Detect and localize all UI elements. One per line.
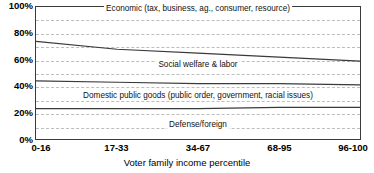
y-axis-tick-label: 20%: [1, 108, 33, 118]
boundary-line: [36, 41, 360, 61]
x-axis-tick-label: 17-33: [104, 142, 128, 154]
x-axis-tick-label: 96-100: [338, 142, 368, 154]
y-axis-tick-label: 40%: [1, 81, 33, 91]
series-lines: [36, 7, 360, 139]
x-axis: 0-1617-3334-6768-9596-100: [0, 142, 374, 156]
x-axis-title: Voter family income percentile: [0, 157, 374, 169]
stacked-area-chart: 100%80%60%40%20%0% 0-1617-3334-6768-9596…: [0, 0, 374, 173]
y-axis-tick-label: 60%: [1, 55, 33, 65]
y-axis-tick-label: 80%: [1, 28, 33, 38]
boundary-line: [36, 81, 360, 85]
series-label: Defense/foreign: [167, 120, 229, 129]
y-axis-tick-label: 100%: [1, 1, 33, 11]
boundary-line: [36, 107, 360, 108]
series-label: Economic (tax, business, ag., consumer, …: [104, 4, 292, 13]
x-axis-tick-label: 0-16: [31, 142, 50, 154]
x-axis-tick-label: 68-95: [267, 142, 291, 154]
series-label: Domestic public goods (public order, gov…: [81, 91, 315, 100]
series-label: Social welfare & labor: [156, 60, 239, 69]
x-axis-tick-label: 34-67: [186, 142, 210, 154]
